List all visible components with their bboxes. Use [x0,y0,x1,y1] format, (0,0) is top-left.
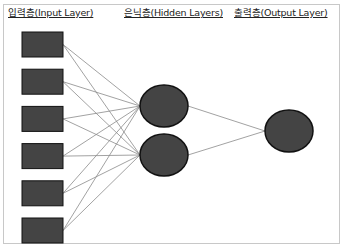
edge-input-4-hidden-2 [63,155,140,156]
input-node-4 [22,144,63,169]
edge-input-4-hidden-1 [63,106,140,156]
edge-input-2-hidden-1 [63,82,140,106]
edge-input-2-hidden-2 [63,82,140,155]
output-node-1 [265,110,313,152]
neural-network-diagram [0,0,344,250]
edge-input-5-hidden-2 [63,155,140,193]
hidden-node-1 [140,85,188,127]
edge-hidden-1-output-1 [188,106,265,131]
nodes [22,32,313,243]
edge-input-1-hidden-2 [63,45,140,156]
input-node-6 [22,218,63,243]
edge-hidden-2-output-1 [188,131,265,155]
input-node-2 [22,69,63,94]
edge-input-6-hidden-2 [63,155,140,231]
edge-input-1-hidden-1 [63,45,140,107]
hidden-node-2 [140,134,188,176]
input-node-5 [22,181,63,206]
input-node-1 [22,32,63,57]
input-node-3 [22,106,63,131]
edge-input-3-hidden-1 [63,106,140,119]
